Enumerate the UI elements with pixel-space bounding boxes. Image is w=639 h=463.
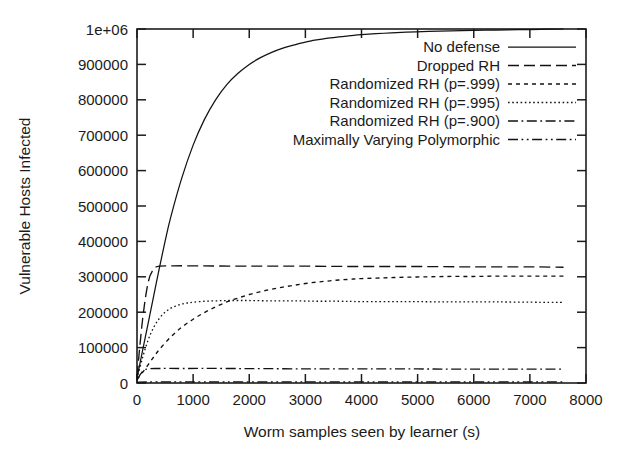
x-axis-ticklabel: 1000 [176, 391, 209, 408]
y-axis-ticklabel: 100000 [78, 339, 128, 356]
y-axis-ticklabel: 700000 [78, 127, 128, 144]
x-axis-ticklabel: 5000 [401, 391, 434, 408]
x-axis-ticklabel: 4000 [345, 391, 378, 408]
x-axis-ticklabel: 2000 [233, 391, 266, 408]
y-axis-title: Vulnerable Hosts Infected [16, 118, 33, 295]
y-axis-ticklabel: 0 [120, 375, 128, 392]
y-axis-ticklabel: 600000 [78, 162, 128, 179]
legend-label: Randomized RH (p=.999) [329, 75, 500, 92]
x-axis-ticklabel: 7000 [513, 391, 546, 408]
worm-infection-line-chart: 0100000200000300000400000500000600000700… [0, 0, 639, 463]
legend-label: Randomized RH (p=.900) [329, 112, 500, 129]
y-axis-ticklabel: 900000 [78, 56, 128, 73]
x-axis-title: Worm samples seen by learner (s) [244, 423, 481, 440]
x-axis-ticklabel: 0 [133, 391, 141, 408]
y-axis-ticklabel: 1e+06 [86, 21, 128, 38]
legend-label: No defense [423, 38, 500, 55]
x-axis-ticklabel: 3000 [289, 391, 322, 408]
y-axis-ticklabel: 300000 [78, 268, 128, 285]
legend-label: Dropped RH [417, 57, 500, 74]
y-axis-ticklabel: 200000 [78, 304, 128, 321]
chart-figure: 0100000200000300000400000500000600000700… [0, 0, 639, 463]
y-axis-ticklabel: 800000 [78, 91, 128, 108]
x-axis-ticklabel: 8000 [569, 391, 602, 408]
y-axis-ticklabel: 500000 [78, 198, 128, 215]
legend-label: Maximally Varying Polymorphic [293, 131, 501, 148]
y-axis-ticklabel: 400000 [78, 233, 128, 250]
legend-label: Randomized RH (p=.995) [329, 94, 500, 111]
x-axis-ticklabel: 6000 [457, 391, 490, 408]
